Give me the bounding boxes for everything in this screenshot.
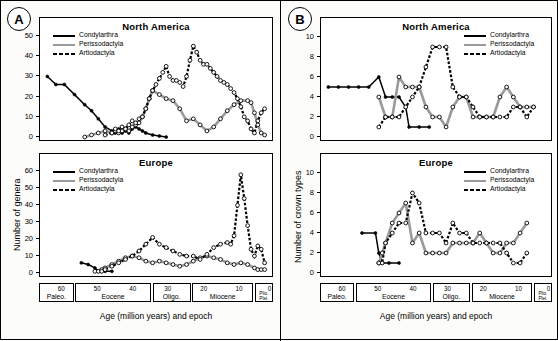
legend-label: Perissodactyla <box>490 41 534 48</box>
data-point <box>256 119 260 123</box>
data-point <box>246 119 250 123</box>
y-tick-mark <box>317 76 320 77</box>
data-point <box>97 117 100 120</box>
data-point <box>478 241 482 245</box>
x-tick-label: 50 <box>374 285 381 292</box>
data-point <box>408 126 411 129</box>
data-point <box>337 86 340 89</box>
data-point <box>191 254 195 258</box>
data-point <box>398 262 401 265</box>
data-point <box>525 105 529 109</box>
y-tick-mark <box>36 238 39 239</box>
legend-swatch-icon <box>464 40 486 49</box>
y-tick-mark <box>317 36 320 37</box>
data-point <box>417 201 421 205</box>
data-point <box>424 251 428 255</box>
data-point <box>103 268 107 272</box>
y-tick-label: 50 <box>17 183 33 192</box>
data-point <box>239 105 243 109</box>
y-tick-label: 10 <box>17 251 33 260</box>
data-point <box>249 127 253 131</box>
legend-item-artiodactyla: Artiodactyla <box>53 185 123 194</box>
data-point <box>185 263 189 267</box>
y-tick-mark <box>317 212 320 213</box>
epoch-tick-numbers: 30 <box>154 285 190 293</box>
data-point <box>491 115 495 119</box>
data-point <box>458 241 462 245</box>
data-point <box>511 261 515 265</box>
legend-item-perissodactyla: Perissodactyla <box>53 176 123 185</box>
panel-a-tag: A <box>7 7 31 31</box>
data-point <box>387 262 390 265</box>
data-point <box>164 64 168 68</box>
data-point <box>212 256 216 260</box>
epoch-cell: 30Oligo. <box>433 283 471 302</box>
data-point <box>404 85 408 89</box>
y-tick-mark <box>36 170 39 171</box>
data-point <box>157 77 161 81</box>
epoch-cell: 60Paleo. <box>320 283 354 302</box>
data-point <box>171 249 175 253</box>
y-tick-label: 2 <box>298 248 314 257</box>
data-point <box>158 134 161 137</box>
data-point <box>83 135 87 139</box>
data-point <box>437 115 441 119</box>
data-point <box>191 44 195 48</box>
data-point <box>498 251 502 255</box>
legend-swatch-icon <box>464 167 486 176</box>
data-point <box>195 50 199 54</box>
data-point <box>404 105 408 109</box>
data-point <box>239 261 243 265</box>
data-point <box>380 261 384 265</box>
y-tick-mark <box>317 252 320 253</box>
data-point <box>511 105 515 109</box>
data-point <box>478 231 482 235</box>
data-point <box>464 231 468 235</box>
series-line-condylarthra <box>328 77 429 127</box>
data-point <box>198 58 202 62</box>
legend: CondylarthraPerissodactylaArtiodactyla <box>53 167 123 194</box>
data-point <box>144 131 147 134</box>
epoch-tick-numbers: 60 <box>40 285 73 293</box>
legend-label: Artiodactyla <box>79 186 115 193</box>
data-point <box>327 86 330 89</box>
epoch-name: Miocene <box>193 293 252 300</box>
y-tick-mark <box>36 55 39 56</box>
data-point <box>83 103 86 106</box>
legend-label: Perissodactyla <box>79 41 123 48</box>
data-point <box>117 261 121 265</box>
data-point <box>181 85 185 89</box>
data-point <box>377 95 381 99</box>
x-tick-label: 40 <box>129 285 136 292</box>
legend-swatch-icon <box>53 40 75 49</box>
data-point <box>384 241 388 245</box>
data-point <box>397 75 401 79</box>
epoch-cell: 5040Eocene <box>356 283 431 302</box>
data-point <box>232 103 236 107</box>
data-point <box>377 125 381 129</box>
legend-label: Perissodactyla <box>79 177 123 184</box>
data-point <box>151 236 155 240</box>
data-point <box>225 261 229 265</box>
data-point <box>498 95 502 99</box>
data-point <box>96 131 100 135</box>
data-point <box>471 241 475 245</box>
data-point <box>263 268 267 272</box>
y-tick-mark <box>317 192 320 193</box>
data-point <box>444 241 448 245</box>
epoch-name: Plio.Plei. <box>535 291 551 301</box>
data-point <box>63 83 66 86</box>
panel-b-xlabel: Age (million years) and epoch <box>320 311 552 321</box>
data-point <box>511 95 515 99</box>
data-point <box>205 62 209 66</box>
legend-item-condylarthra: Condylarthra <box>53 167 123 176</box>
x-tick-label: 60 <box>339 285 346 292</box>
data-point <box>138 127 141 130</box>
data-point <box>229 87 233 91</box>
epoch-cell: 0Plio.Plei. <box>255 283 273 302</box>
data-point <box>198 123 202 127</box>
data-point <box>384 115 388 119</box>
y-tick-mark <box>317 116 320 117</box>
data-point <box>219 242 223 246</box>
